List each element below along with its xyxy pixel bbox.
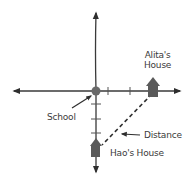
school-origin-dot: [92, 87, 101, 96]
school-label: School: [47, 112, 76, 122]
alita-label-line2: House: [144, 60, 171, 70]
alita-house-label: Alita's House: [144, 50, 171, 70]
distance-label: Distance: [144, 130, 182, 140]
distance-pointer-arrow: [122, 134, 140, 135]
alita-house-icon: [146, 77, 160, 97]
alita-label-line1: Alita's: [144, 50, 171, 60]
hao-house-label: Hao's House: [110, 148, 164, 158]
school-pointer-arrow: [72, 96, 91, 108]
hao-house-icon: [90, 138, 102, 157]
